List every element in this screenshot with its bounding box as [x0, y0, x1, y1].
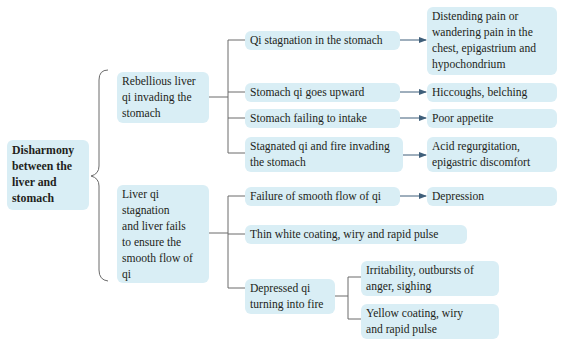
node-line: anger, sighing	[366, 279, 494, 295]
node-line: Hiccoughs, belching	[432, 85, 552, 101]
node-depressed-qi-fire: Depressed qi turning into fire	[245, 279, 335, 314]
node-line: Stagnated qi and fire invading	[250, 139, 398, 155]
root-line: stomach	[12, 190, 84, 206]
node-line: the stomach	[250, 155, 398, 171]
node-line: Distending pain or	[432, 9, 552, 25]
node-line: qi	[122, 267, 204, 283]
root-line: between the	[12, 158, 84, 174]
node-line: Thin white coating, wiry and rapid pulse	[250, 227, 462, 243]
node-stomach-qi-upward: Stomach qi goes upward	[245, 83, 400, 102]
node-line: to ensure the	[122, 235, 204, 251]
branch-liver-qi-stagnation: Liver qi stagnation and liver fails to e…	[117, 185, 209, 283]
node-line: Depression	[432, 189, 552, 205]
node-line: Qi stagnation in the stomach	[250, 33, 395, 49]
node-yellow-coating: Yellow coating, wiry and rapid pulse	[361, 304, 499, 339]
node-line: Yellow coating, wiry	[366, 306, 494, 322]
node-line: and liver fails	[122, 219, 204, 235]
curly-brace	[91, 70, 108, 281]
node-thin-white-coating: Thin white coating, wiry and rapid pulse	[245, 225, 467, 244]
result-depression: Depression	[427, 187, 557, 206]
node-line: Poor appetite	[432, 111, 552, 127]
node-line: Irritability, outbursts of	[366, 263, 494, 279]
node-line: stagnation	[122, 203, 204, 219]
node-line: epigastric discomfort	[432, 155, 552, 171]
node-line: wandering pain in the	[432, 25, 552, 41]
node-line: Liver qi	[122, 187, 204, 203]
node-line: Failure of smooth flow of qi	[250, 189, 395, 205]
root-line: Disharmony	[12, 142, 84, 158]
node-line: and rapid pulse	[366, 322, 494, 338]
node-stagnated-qi-fire: Stagnated qi and fire invading the stoma…	[245, 137, 403, 172]
node-line: Acid regurgitation,	[432, 139, 552, 155]
node-qi-stagnation-stomach: Qi stagnation in the stomach	[245, 31, 400, 50]
result-poor-appetite: Poor appetite	[427, 109, 557, 128]
result-hiccoughs: Hiccoughs, belching	[427, 83, 557, 102]
node-failure-smooth-flow: Failure of smooth flow of qi	[245, 187, 400, 206]
result-acid-regurgitation: Acid regurgitation, epigastric discomfor…	[427, 137, 557, 172]
node-line: Depressed qi	[250, 281, 330, 297]
node-line: chest, epigastrium and	[432, 41, 552, 57]
branch-rebellious-liver-qi: Rebellious liver qi invading the stomach	[117, 72, 209, 123]
node-line: stomach	[122, 106, 204, 122]
node-irritability: Irritability, outbursts of anger, sighin…	[361, 261, 499, 296]
node-line: Stomach qi goes upward	[250, 85, 395, 101]
node-line: qi invading the	[122, 90, 204, 106]
node-line: turning into fire	[250, 297, 330, 313]
node-stomach-failing-intake: Stomach failing to intake	[245, 109, 400, 128]
result-distending-pain: Distending pain or wandering pain in the…	[427, 7, 557, 75]
root-node: Disharmony between the liver and stomach	[7, 140, 89, 210]
node-line: Stomach failing to intake	[250, 111, 395, 127]
node-line: smooth flow of	[122, 251, 204, 267]
node-line: Rebellious liver	[122, 74, 204, 90]
node-line: hypochondrium	[432, 57, 552, 73]
root-line: liver and	[12, 174, 84, 190]
